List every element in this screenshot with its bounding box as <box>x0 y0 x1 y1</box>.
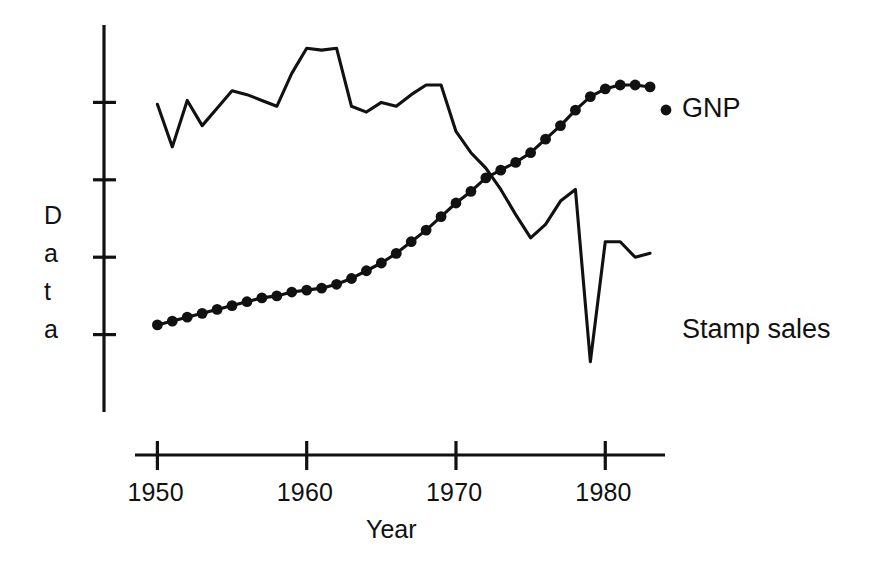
data-point <box>451 198 462 209</box>
y-axis-title-letter-3: a <box>44 310 58 348</box>
data-point <box>555 120 566 131</box>
data-point <box>242 296 253 307</box>
data-point <box>212 304 223 315</box>
data-point <box>361 265 372 276</box>
data-point <box>421 225 432 236</box>
y-axis-title-letter-1: a <box>44 234 58 272</box>
data-point <box>301 285 312 296</box>
series-label-stamp-sales: Stamp sales <box>682 314 831 345</box>
data-point <box>600 83 611 94</box>
y-axis-title-letter-2: t <box>44 272 51 310</box>
y-axis-title: D a t a <box>44 196 78 348</box>
data-point <box>286 287 297 298</box>
data-point <box>346 273 357 284</box>
data-point <box>331 279 342 290</box>
x-axis-title: Year <box>366 515 417 544</box>
x-axis-tick-label-3: 1980 <box>575 478 631 507</box>
data-point <box>182 312 193 323</box>
series-label-gnp: GNP <box>682 93 741 124</box>
data-point <box>316 283 327 294</box>
chart-figure: 1950196019701980 D a t a Year GNP Stamp … <box>0 0 873 577</box>
data-point <box>540 134 551 145</box>
y-axis-title-letter-0: D <box>44 196 62 234</box>
data-point <box>570 105 581 116</box>
data-point <box>510 157 521 168</box>
data-point <box>645 82 656 93</box>
data-point <box>495 165 506 176</box>
series-gnp <box>152 80 655 331</box>
data-point <box>227 300 238 311</box>
x-axis-tick-label-2: 1970 <box>426 478 482 507</box>
data-point <box>525 147 536 158</box>
data-point <box>376 258 387 269</box>
data-point <box>391 248 402 259</box>
data-point <box>197 308 208 319</box>
series-line-0 <box>157 48 650 361</box>
data-point <box>630 80 641 91</box>
data-point <box>585 91 596 102</box>
x-axis-tick-label-0: 1950 <box>127 478 183 507</box>
data-point <box>436 211 447 222</box>
data-point <box>480 172 491 183</box>
data-point <box>167 316 178 327</box>
data-point <box>406 236 417 247</box>
data-series-group <box>152 48 671 361</box>
x-axis-tick-label-1: 1960 <box>277 478 333 507</box>
legend-marker-gnp <box>661 105 672 116</box>
data-point <box>466 186 477 197</box>
series-stamp-sales <box>157 48 650 361</box>
data-point <box>257 292 268 303</box>
data-point <box>615 80 626 91</box>
data-point <box>152 320 163 331</box>
data-point <box>271 291 282 302</box>
